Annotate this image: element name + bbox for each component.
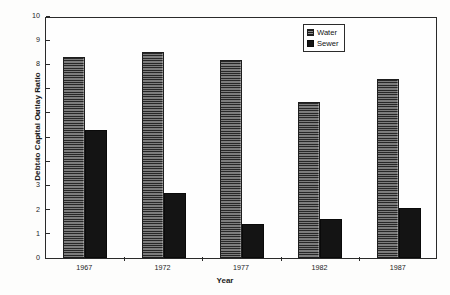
x-axis-title: Year (0, 276, 450, 285)
y-tick-mark (46, 233, 50, 234)
y-tick-mark (46, 209, 50, 210)
y-tick-label: 2 (23, 205, 40, 214)
x-tick-mark (359, 257, 360, 261)
y-tick-label: 6 (23, 108, 40, 117)
y-tick-label: 9 (23, 35, 40, 44)
legend-item-sewer: Sewer (307, 38, 339, 49)
bar-water-1967 (63, 57, 85, 258)
x-tick-mark (281, 257, 282, 261)
chart-figure: Debt to Capital Outlay Ratio 01234567891… (0, 0, 450, 295)
bar-water-1987 (377, 79, 399, 258)
y-tick-mark (46, 161, 50, 162)
y-tick-mark (46, 137, 50, 138)
y-tick-label: 1 (23, 229, 40, 238)
x-tick-label: 1977 (211, 263, 271, 272)
y-tick-label: 3 (23, 180, 40, 189)
y-tick-label: 8 (23, 59, 40, 68)
legend-item-water: Water (307, 27, 339, 38)
y-tick-mark (46, 88, 50, 89)
x-tick-label: 1967 (54, 263, 114, 272)
chart-legend: Water Sewer (303, 24, 345, 52)
bar-water-1982 (298, 102, 320, 258)
y-tick-mark (46, 40, 50, 41)
y-tick-mark (46, 258, 50, 259)
x-tick-label: 1972 (133, 263, 193, 272)
bar-sewer-1982 (320, 219, 342, 258)
bar-sewer-1987 (399, 208, 421, 258)
bar-water-1972 (142, 52, 164, 258)
y-axis-title: Debt to Capital Outlay Ratio (33, 17, 42, 237)
legend-swatch-sewer-icon (307, 40, 314, 47)
legend-swatch-water-icon (307, 29, 314, 36)
y-tick-label: 5 (23, 132, 40, 141)
y-tick-mark (46, 64, 50, 65)
y-tick-label: 10 (23, 11, 40, 20)
x-tick-mark (124, 257, 125, 261)
y-tick-mark (46, 185, 50, 186)
bar-sewer-1972 (164, 193, 186, 258)
y-tick-mark (46, 112, 50, 113)
bar-water-1977 (220, 60, 242, 258)
y-tick-label: 0 (23, 253, 40, 262)
bar-sewer-1977 (242, 224, 264, 258)
plot-area: 012345678910 (45, 17, 437, 259)
y-tick-mark (46, 16, 50, 17)
x-tick-label: 1982 (289, 263, 349, 272)
legend-label-sewer: Sewer (317, 39, 339, 48)
y-tick-label: 7 (23, 84, 40, 93)
bar-sewer-1967 (85, 130, 107, 258)
legend-label-water: Water (317, 28, 337, 37)
x-tick-label: 1987 (368, 263, 428, 272)
y-tick-label: 4 (23, 156, 40, 165)
x-tick-mark (202, 257, 203, 261)
